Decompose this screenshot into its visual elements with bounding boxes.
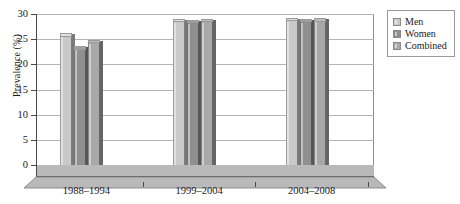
bar-group xyxy=(60,14,100,177)
y-axis-line xyxy=(36,14,37,177)
bar-highlight xyxy=(174,23,176,165)
bar-highlight xyxy=(89,44,91,165)
bar-highlight xyxy=(287,22,289,165)
bar-group xyxy=(286,14,326,177)
bar xyxy=(187,20,199,165)
legend-swatch xyxy=(393,30,401,38)
x-tick-label: 2004–2008 xyxy=(288,185,335,196)
bar xyxy=(74,46,86,165)
bar-top xyxy=(201,19,213,23)
bar-highlight xyxy=(61,37,63,165)
legend-swatch xyxy=(393,18,401,26)
x-tick-mark xyxy=(255,182,256,187)
bar xyxy=(173,19,185,165)
bar-highlight xyxy=(75,50,77,165)
x-tick-label: 1988–1994 xyxy=(63,185,110,196)
bar-chart: Prevalence (%) 051015202530 1988–1994199… xyxy=(0,0,460,204)
bar-top xyxy=(88,40,100,44)
y-tick-label: 15 xyxy=(18,84,29,95)
bar-top xyxy=(286,18,298,22)
bar-top xyxy=(60,33,72,37)
legend-item: Combined xyxy=(393,40,450,51)
bar-top xyxy=(314,18,326,22)
bar xyxy=(300,19,312,165)
bar-top xyxy=(187,20,199,24)
y-tick-label: 10 xyxy=(18,109,29,120)
plot-area: 051015202530 xyxy=(36,14,374,177)
legend-item: Women xyxy=(393,28,450,39)
bar xyxy=(314,18,326,165)
y-tick-label: 0 xyxy=(23,160,28,171)
legend-swatch xyxy=(393,42,401,50)
x-tick-mark xyxy=(368,182,369,187)
bar-side xyxy=(326,19,329,165)
y-tick-label: 20 xyxy=(18,59,29,70)
legend-label: Women xyxy=(405,28,436,39)
bar-highlight xyxy=(202,23,204,165)
y-tick-label: 25 xyxy=(18,34,29,45)
x-tick-mark xyxy=(143,182,144,187)
bar-side xyxy=(213,20,216,165)
bar-highlight xyxy=(301,23,303,165)
bar-highlight xyxy=(188,24,190,165)
bar-side xyxy=(100,41,103,165)
bar-top xyxy=(74,46,86,50)
legend-item: Men xyxy=(393,16,450,27)
legend: MenWomenCombined xyxy=(387,10,455,57)
bar xyxy=(60,33,72,165)
bar-top xyxy=(173,19,185,23)
legend-label: Combined xyxy=(405,40,447,51)
bar-top xyxy=(300,19,312,23)
bar xyxy=(201,19,213,165)
bar-group xyxy=(173,14,213,177)
y-tick-label: 30 xyxy=(18,9,29,20)
legend-label: Men xyxy=(405,16,423,27)
bar xyxy=(88,40,100,165)
bar xyxy=(286,18,298,165)
bar-highlight xyxy=(315,22,317,165)
y-tick-label: 5 xyxy=(23,135,28,146)
x-tick-label: 1999–2004 xyxy=(175,185,222,196)
x-axis-line xyxy=(36,176,374,177)
